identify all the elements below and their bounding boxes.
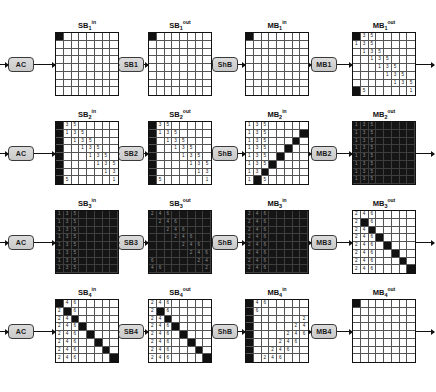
state-cell: 1	[361, 49, 369, 57]
state-cell	[110, 211, 118, 219]
state-cell	[79, 161, 87, 169]
state-cell	[180, 130, 188, 138]
ac-box-4[interactable]: AC	[8, 324, 34, 339]
state-cell	[407, 72, 415, 80]
sb-op-box-3[interactable]: SB3	[118, 235, 144, 250]
state-cell: 5	[165, 122, 173, 130]
state-cell	[353, 331, 361, 339]
state-cell	[56, 80, 64, 88]
state-cell	[157, 72, 165, 80]
state-cell	[165, 33, 173, 41]
state-grid: 3513513513513513513551	[352, 32, 416, 96]
ac-box-2[interactable]: AC	[8, 146, 34, 161]
state-cell	[300, 308, 308, 316]
state-cell: 5	[369, 153, 377, 161]
state-cell	[269, 176, 277, 184]
state-cell	[376, 339, 384, 347]
shb-box-1[interactable]: ShB	[212, 57, 238, 72]
state-cell	[103, 64, 111, 72]
state-cell	[269, 41, 277, 49]
state-cell	[110, 300, 118, 308]
state-cell: 3	[376, 56, 384, 64]
state-cell	[269, 145, 277, 153]
state-cell	[392, 323, 400, 331]
shb-box-4[interactable]: ShB	[212, 324, 238, 339]
state-cell	[384, 250, 392, 258]
state-cell	[188, 339, 196, 347]
state-cell	[103, 33, 111, 41]
flow-arrow	[0, 242, 8, 243]
cipher-round-4: ACSB4ShBMB4SB4in462624246246246246246SB4…	[0, 281, 436, 369]
state-cell: 6	[285, 347, 293, 355]
state-cell	[246, 308, 254, 316]
state-cell	[277, 72, 285, 80]
state-cell	[64, 87, 72, 95]
state-cell	[285, 130, 293, 138]
state-cell: 5	[369, 169, 377, 177]
state-cell: 2	[353, 258, 361, 266]
state-cell	[407, 227, 415, 235]
mb-op-box-2[interactable]: MB2	[311, 146, 337, 161]
state-cell	[79, 323, 87, 331]
state-cell	[196, 49, 204, 57]
state-cell	[277, 41, 285, 49]
state-cell	[277, 33, 285, 41]
state-cell	[103, 339, 111, 347]
state-cell	[87, 234, 95, 242]
sb-op-box-1[interactable]: SB1	[118, 57, 144, 72]
state-cell: 6	[165, 323, 173, 331]
sb-op-box-4[interactable]: SB4	[118, 324, 144, 339]
state-cell	[72, 41, 80, 49]
state-cell	[376, 80, 384, 88]
state-cell: 4	[64, 339, 72, 347]
state-cell: 6	[72, 354, 80, 362]
state-cell	[203, 308, 211, 316]
state-cell: 6	[157, 265, 165, 273]
mb-op-box-3[interactable]: MB3	[311, 235, 337, 250]
state-cell	[180, 169, 188, 177]
ac-box-3[interactable]: AC	[8, 235, 34, 250]
state-cell	[369, 87, 377, 95]
state-cell	[87, 265, 95, 273]
state-cell	[254, 72, 262, 80]
mb-op-box-1[interactable]: MB1	[311, 57, 337, 72]
matrix-mb-out-2: MB2out135135135135135135135135	[352, 121, 416, 185]
state-cell	[361, 72, 369, 80]
shb-box-3[interactable]: ShB	[212, 235, 238, 250]
state-cell	[180, 354, 188, 362]
state-cell	[157, 87, 165, 95]
state-cell	[87, 161, 95, 169]
state-cell: 2	[277, 339, 285, 347]
state-cell	[157, 308, 165, 316]
state-cell: 6	[72, 323, 80, 331]
state-cell	[188, 176, 196, 184]
state-cell: 1	[384, 72, 392, 80]
state-cell	[103, 265, 111, 273]
state-cell	[285, 72, 293, 80]
state-cell	[384, 41, 392, 49]
state-grid: 135135135135135135135135	[55, 210, 119, 274]
state-cell	[103, 227, 111, 235]
state-cell	[277, 169, 285, 177]
state-cell	[376, 323, 384, 331]
state-cell	[246, 339, 254, 347]
state-cell	[285, 354, 293, 362]
shb-box-2[interactable]: ShB	[212, 146, 238, 161]
ac-box-1[interactable]: AC	[8, 57, 34, 72]
state-cell	[203, 339, 211, 347]
state-cell	[79, 250, 87, 258]
state-cell: 6	[262, 258, 270, 266]
state-cell: 1	[56, 211, 64, 219]
state-cell	[376, 219, 384, 227]
state-cell	[277, 219, 285, 227]
mb-op-box-4[interactable]: MB4	[311, 324, 337, 339]
state-cell	[188, 323, 196, 331]
state-cell	[269, 300, 277, 308]
state-cell	[376, 87, 384, 95]
state-cell	[64, 33, 72, 41]
state-cell: 5	[87, 138, 95, 146]
state-cell	[203, 64, 211, 72]
sb-op-box-2[interactable]: SB2	[118, 146, 144, 161]
matrix-label-mb-out-1: MB1out	[352, 19, 416, 31]
state-cell	[300, 49, 308, 57]
